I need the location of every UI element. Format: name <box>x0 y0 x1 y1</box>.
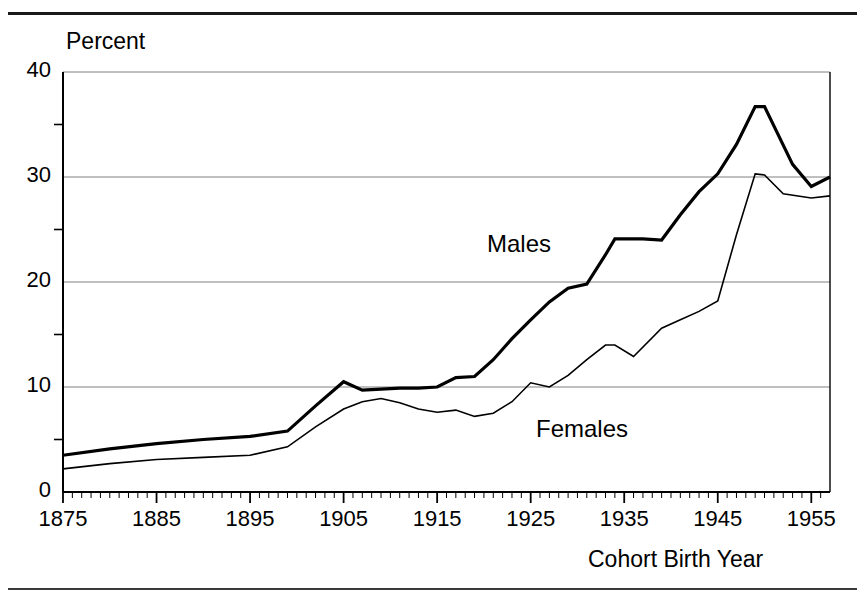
x-tick-label-1875: 1875 <box>28 506 98 532</box>
y-tick-label-10: 10 <box>7 372 51 398</box>
x-tick-label-1945: 1945 <box>683 506 753 532</box>
y-tick-label-0: 0 <box>7 477 51 503</box>
y-tick-label-40: 40 <box>7 57 51 83</box>
x-tick-label-1895: 1895 <box>215 506 285 532</box>
x-tick-label-1935: 1935 <box>589 506 659 532</box>
x-tick-label-1905: 1905 <box>309 506 379 532</box>
series-line-males <box>63 107 830 456</box>
x-tick-label-1925: 1925 <box>496 506 566 532</box>
y-tick-label-30: 30 <box>7 162 51 188</box>
y-tick-label-20: 20 <box>7 267 51 293</box>
x-tick-label-1955: 1955 <box>776 506 846 532</box>
chart-page: Percent Cohort Birth Year Males Females … <box>0 0 865 595</box>
x-tick-label-1885: 1885 <box>122 506 192 532</box>
series-line-females <box>63 174 830 469</box>
x-tick-label-1915: 1915 <box>402 506 472 532</box>
